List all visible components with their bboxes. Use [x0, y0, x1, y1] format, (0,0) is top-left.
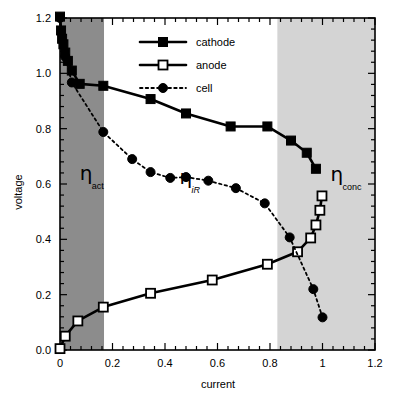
marker-open-square — [263, 260, 272, 269]
x-tick-label: 0.4 — [157, 357, 172, 369]
legend-label: cell — [196, 82, 213, 94]
marker-filled-circle — [159, 84, 168, 93]
marker-filled-square — [99, 81, 108, 90]
marker-open-square — [56, 344, 65, 353]
marker-filled-circle — [67, 78, 76, 87]
marker-filled-circle — [56, 14, 65, 23]
x-tick-label: 0.2 — [105, 357, 120, 369]
marker-open-square — [146, 289, 155, 298]
marker-open-square — [311, 220, 320, 229]
marker-filled-circle — [260, 199, 269, 208]
marker-filled-circle — [166, 173, 175, 182]
marker-open-square — [99, 303, 108, 312]
marker-filled-square — [287, 136, 296, 145]
y-tick-label: 0.4 — [36, 233, 51, 245]
y-tick-label: 0.6 — [36, 178, 51, 190]
marker-filled-square — [226, 122, 235, 131]
polarization-curve-chart: 00.20.40.60.811.2 0.00.20.40.60.81.01.2 … — [0, 0, 396, 411]
marker-filled-circle — [99, 127, 108, 136]
marker-filled-circle — [231, 184, 240, 193]
eta-symbol: η — [330, 162, 343, 186]
marker-filled-square — [263, 122, 272, 131]
marker-filled-circle — [128, 155, 137, 164]
x-tick-label: 0.6 — [210, 357, 225, 369]
marker-filled-square — [302, 148, 311, 157]
marker-filled-circle — [285, 233, 294, 242]
y-tick-label: 0.0 — [36, 344, 51, 356]
eta-subscript: iR — [191, 185, 200, 195]
marker-open-square — [306, 233, 315, 242]
x-tick-label: 1.2 — [367, 357, 382, 369]
eta-subscript: conc — [342, 182, 362, 192]
x-tick-label: 0.8 — [262, 357, 277, 369]
marker-open-square — [315, 206, 324, 215]
marker-open-square — [61, 332, 70, 341]
marker-open-square — [159, 61, 168, 70]
y-axis-label: voltage — [12, 174, 24, 209]
legend-label: cathode — [196, 36, 235, 48]
marker-filled-square — [311, 164, 320, 173]
marker-filled-circle — [318, 313, 327, 322]
marker-filled-circle — [61, 52, 70, 61]
marker-open-square — [317, 191, 326, 200]
eta-subscript: act — [92, 181, 105, 191]
y-tick-label: 0.8 — [36, 123, 51, 135]
eta-symbol: η — [179, 165, 192, 189]
eta-symbol: η — [80, 161, 93, 185]
marker-filled-circle — [204, 176, 213, 185]
y-tick-label: 1.2 — [36, 12, 51, 24]
x-axis-label: current — [201, 378, 235, 390]
marker-filled-square — [159, 38, 168, 47]
marker-filled-square — [182, 109, 191, 118]
marker-open-square — [208, 276, 217, 285]
legend-label: anode — [196, 59, 227, 71]
y-tick-label: 0.2 — [36, 289, 51, 301]
marker-filled-circle — [146, 168, 155, 177]
marker-filled-circle — [309, 285, 318, 294]
y-tick-label: 1.0 — [36, 67, 51, 79]
marker-filled-square — [146, 95, 155, 104]
x-tick-label: 0 — [57, 357, 63, 369]
x-tick-label: 1 — [319, 357, 325, 369]
marker-open-square — [73, 316, 82, 325]
chart-figure: 00.20.40.60.811.2 0.00.20.40.60.81.01.2 … — [0, 0, 396, 411]
